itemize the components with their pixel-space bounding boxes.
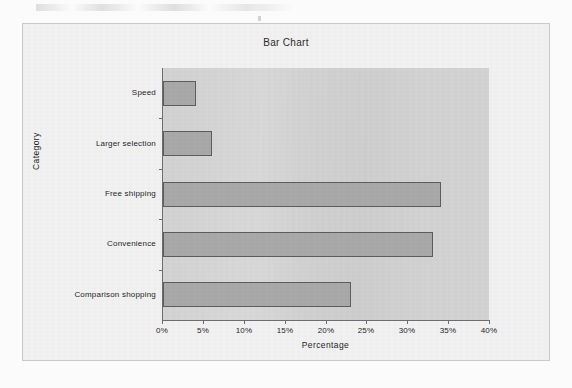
page-canvas: Bar Chart SpeedLarger selectionFree ship…: [0, 0, 572, 388]
x-axis-tick-label: 15%: [277, 326, 294, 335]
x-axis-tick-label: 5%: [197, 326, 209, 335]
bar: [163, 131, 212, 156]
x-axis-tick: [162, 320, 163, 324]
plot-area: [162, 68, 489, 320]
y-axis-tick: [159, 118, 163, 119]
x-axis-tick: [285, 320, 286, 324]
bar: [163, 182, 441, 207]
x-axis-tick-label: 40%: [481, 326, 498, 335]
x-axis-line: 0%5%10%15%20%25%30%35%40%: [162, 320, 489, 321]
x-axis-tick-label: 35%: [440, 326, 457, 335]
y-axis-tick-label: Comparison shopping: [74, 290, 156, 299]
x-axis-tick-label: 10%: [236, 326, 253, 335]
bar: [163, 232, 433, 257]
y-axis-tick-label: Free shipping: [105, 189, 156, 198]
y-axis-tick-label: Speed: [132, 88, 156, 97]
y-axis-tick-label: Convenience: [107, 239, 156, 248]
x-axis-tick-label: 25%: [358, 326, 375, 335]
x-axis-tick: [448, 320, 449, 324]
y-axis-tick: [159, 169, 163, 170]
scan-artifact-smudge: [36, 4, 336, 11]
x-axis-tick: [489, 320, 490, 324]
x-axis-tick: [203, 320, 204, 324]
y-axis-tick: [159, 219, 163, 220]
x-axis-tick: [244, 320, 245, 324]
x-axis-tick-label: 30%: [399, 326, 416, 335]
y-axis-tick-label: Larger selection: [96, 139, 156, 148]
x-axis-tick: [326, 320, 327, 324]
y-axis-title: Category: [31, 132, 41, 170]
scan-artifact-dot: [258, 16, 261, 21]
x-axis-tick-label: 0%: [156, 326, 168, 335]
bar: [163, 282, 351, 307]
chart-frame: Bar Chart SpeedLarger selectionFree ship…: [22, 23, 550, 361]
bar: [163, 81, 196, 106]
chart-title: Bar Chart: [23, 37, 549, 48]
x-axis-tick-label: 20%: [318, 326, 335, 335]
y-axis-tick: [159, 270, 163, 271]
x-axis-title: Percentage: [162, 340, 489, 350]
x-axis-tick: [407, 320, 408, 324]
x-axis-tick: [366, 320, 367, 324]
